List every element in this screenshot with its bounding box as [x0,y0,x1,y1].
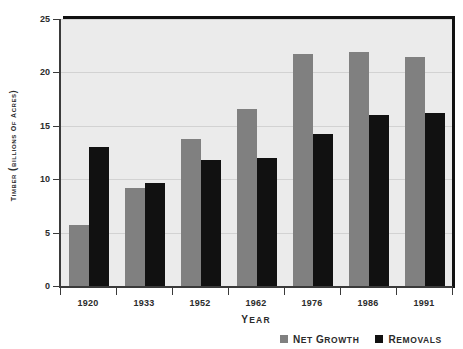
y-axis-tick [53,19,60,20]
legend-item-net-growth[interactable]: NET GROWTH [280,334,359,345]
x-axis-tick [60,288,61,295]
y-axis-line [59,19,61,287]
x-axis-title: YEAR [60,314,452,325]
plot-area [60,19,452,286]
bar-net-growth-1991 [405,57,425,286]
x-axis-title-text: YEAR [241,315,270,325]
gridline [61,72,452,73]
x-axis-tick [452,288,453,295]
x-axis-tick [116,288,117,295]
x-axis-tick [228,288,229,295]
legend-item-removals[interactable]: REMOVALS [375,334,441,345]
x-axis-tick-label: 1920 [58,298,118,308]
y-axis-tick-label: 20 [0,67,50,77]
y-axis-tick-label: 10 [0,174,50,184]
bar-removals-1991 [425,113,445,286]
y-axis-title-container: TIMBER (BILLIONS OF ACRES) [0,0,26,290]
y-axis-tick-label-container: 10 [0,174,50,184]
x-axis-tick [284,288,285,295]
bar-net-growth-1933 [125,188,145,286]
x-axis-tick-label: 1952 [170,298,230,308]
y-axis-tick-label: 5 [0,228,50,238]
bar-removals-1976 [313,134,333,286]
y-axis-tick [53,72,60,73]
y-axis-tick-label-container: 0 [0,281,50,291]
bar-removals-1952 [201,160,221,286]
bar-net-growth-1920 [69,225,89,286]
y-axis-tick-label-container: 20 [0,67,50,77]
x-axis-tick-label: 1933 [114,298,174,308]
y-axis-tick-label: 15 [0,121,50,131]
x-axis-tick [172,288,173,295]
x-axis-tick-label: 1976 [282,298,342,308]
bar-removals-1986 [369,115,389,286]
y-axis-tick-label-container: 25 [0,14,50,24]
legend-swatch-net-growth-icon [280,335,288,343]
bar-net-growth-1976 [293,54,313,286]
bar-removals-1920 [89,147,109,286]
legend-label: REMOVALS [388,334,441,345]
bar-chart-figure: TIMBER (BILLIONS OF ACRES) 0510152025 19… [0,0,463,349]
legend: NET GROWTHREMOVALS [280,332,460,346]
x-axis-tick-label: 1991 [394,298,454,308]
x-axis-tick-label: 1986 [338,298,398,308]
bar-removals-1962 [257,158,277,286]
bar-net-growth-1952 [181,139,201,286]
legend-label: NET GROWTH [293,334,359,345]
x-axis-tick-label: 1962 [226,298,286,308]
y-axis-tick [53,286,60,287]
bar-net-growth-1962 [237,109,257,286]
bar-net-growth-1986 [349,52,369,286]
y-axis-tick-label-container: 15 [0,121,50,131]
legend-swatch-removals-icon [375,335,383,343]
y-axis-tick [53,179,60,180]
y-axis-tick-label-container: 5 [0,228,50,238]
bar-removals-1933 [145,183,165,286]
x-axis-tick [340,288,341,295]
gridline [61,19,452,20]
x-axis-line [59,286,453,288]
y-axis-tick-label: 0 [0,281,50,291]
y-axis-tick [53,233,60,234]
x-axis-tick [396,288,397,295]
y-axis-tick [53,126,60,127]
y-axis-tick-label: 25 [0,14,50,24]
